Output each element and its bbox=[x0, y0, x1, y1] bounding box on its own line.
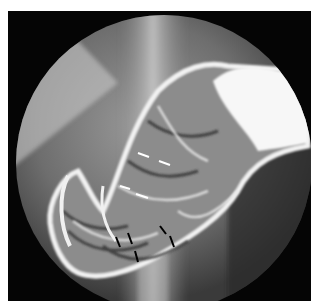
fluoroscopy-field bbox=[8, 11, 311, 301]
radiograph-image bbox=[8, 11, 311, 301]
radiograph-frame bbox=[8, 11, 311, 301]
